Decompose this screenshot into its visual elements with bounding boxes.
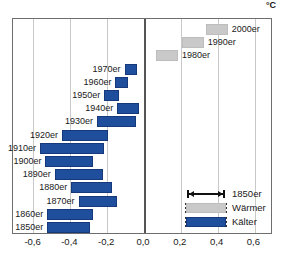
- bar-label: 1890er: [23, 169, 51, 180]
- bar-row: 1930er: [12, 116, 272, 127]
- legend-item[interactable]: 1850er: [186, 188, 270, 200]
- x-tick-label: 0,2: [173, 236, 186, 247]
- bar-label: 1950er: [72, 90, 100, 101]
- bar-label: 1850er: [15, 222, 43, 233]
- bar-1980er[interactable]: [156, 50, 178, 61]
- legend-label: 1850er: [232, 188, 262, 200]
- bar-row: 1960er: [12, 77, 272, 88]
- legend-item[interactable]: Kälter: [186, 216, 270, 228]
- bar-row: 1950er: [12, 90, 272, 101]
- bar-1910er[interactable]: [40, 143, 104, 154]
- bar-row: 1990er: [12, 37, 272, 48]
- bar-label: 1960er: [83, 77, 111, 88]
- x-axis: -0,6-0,4-0,20,00,20,40,6: [0, 236, 288, 252]
- axis-unit-label: °C: [266, 0, 276, 10]
- bar-1950er[interactable]: [104, 90, 119, 101]
- bar-row: 1910er: [12, 143, 272, 154]
- bar-label: 1980er: [182, 50, 210, 61]
- bar-row: 1940er: [12, 103, 272, 114]
- legend-label: Wärmer: [232, 202, 266, 214]
- legend-item[interactable]: Wärmer: [186, 202, 270, 214]
- bar-1930er[interactable]: [97, 116, 136, 127]
- bar-1920er[interactable]: [62, 130, 108, 141]
- bar-1990er[interactable]: [182, 37, 204, 48]
- bar-1890er[interactable]: [55, 169, 103, 180]
- bar-label: 1870er: [47, 196, 75, 207]
- legend-label: Kälter: [232, 216, 257, 228]
- bar-label: 1970er: [93, 64, 121, 75]
- x-tick-label: 0,4: [210, 236, 223, 247]
- bar-1970er[interactable]: [125, 64, 138, 75]
- legend-swatch-warm: [186, 203, 226, 213]
- arrow-right-icon: [218, 191, 223, 197]
- x-tick-label: -0,6: [24, 236, 40, 247]
- bar-2000er[interactable]: [206, 24, 228, 35]
- bar-row: 1980er: [12, 50, 272, 61]
- x-tick-label: 0,0: [136, 236, 149, 247]
- bar-row: 1900er: [12, 156, 272, 167]
- bar-1940er[interactable]: [117, 103, 139, 114]
- bar-1870er[interactable]: [79, 196, 118, 207]
- bar-label: 2000er: [232, 24, 260, 35]
- bar-1960er[interactable]: [115, 77, 128, 88]
- bar-row: 2000er: [12, 24, 272, 35]
- chart-legend: 1850erWärmerKälter: [186, 188, 270, 230]
- x-tick-label: 0,6: [247, 236, 260, 247]
- bar-label: 1880er: [39, 182, 67, 193]
- bar-1860er[interactable]: [47, 209, 93, 220]
- temperature-anomaly-chart: 2000er1990er1980er1970er1960er1950er1940…: [0, 0, 288, 265]
- bar-row: 1890er: [12, 169, 272, 180]
- bar-1850er[interactable]: [47, 222, 89, 233]
- bar-label: 1900er: [13, 156, 41, 167]
- bar-row: 1970er: [12, 64, 272, 75]
- bar-1900er[interactable]: [45, 156, 93, 167]
- bar-label: 1920er: [30, 130, 58, 141]
- legend-swatch-span: [186, 189, 226, 199]
- bar-1880er[interactable]: [71, 182, 111, 193]
- x-tick-label: -0,2: [98, 236, 114, 247]
- legend-swatch-cold: [186, 217, 226, 227]
- bar-label: 1990er: [208, 37, 236, 48]
- bar-label: 1930er: [65, 116, 93, 127]
- arrow-left-icon: [189, 191, 194, 197]
- bar-label: 1910er: [8, 143, 36, 154]
- span-cap-right: [223, 190, 225, 198]
- bar-row: 1920er: [12, 130, 272, 141]
- bar-label: 1940er: [85, 103, 113, 114]
- x-tick-label: -0,4: [61, 236, 77, 247]
- bar-label: 1860er: [15, 209, 43, 220]
